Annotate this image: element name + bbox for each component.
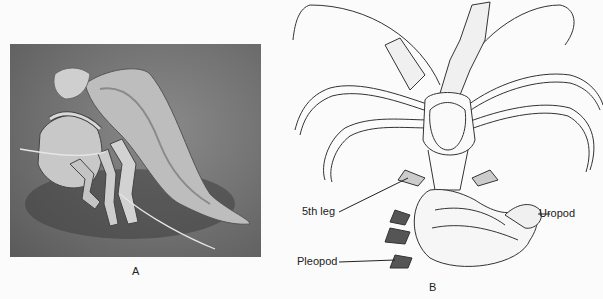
drawing-hermit-crab-dorsal: 5th leg Pleopod Uropod	[290, 0, 603, 275]
caption-panel-b: B	[429, 281, 436, 293]
hermit-crab-photo-illustration	[10, 44, 261, 257]
label-pleopod: Pleopod	[297, 255, 337, 267]
hermit-crab-line-drawing	[290, 0, 603, 275]
photo-hermit-crab-in-shell	[10, 44, 261, 257]
caption-panel-a: A	[132, 265, 139, 277]
label-uropod: Uropod	[539, 207, 575, 219]
label-5th-leg: 5th leg	[302, 205, 335, 217]
